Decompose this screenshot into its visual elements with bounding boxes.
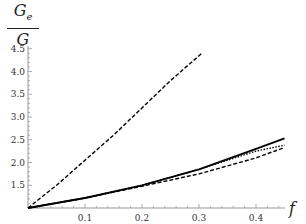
- x-tick-label: 0.4: [249, 213, 264, 223]
- y-tick-label: 2.5: [11, 135, 26, 145]
- x-tick-label: 0.1: [78, 213, 92, 223]
- y-tick-label: 3.0: [11, 112, 26, 122]
- y-tick-label: 2.0: [11, 158, 26, 168]
- series-dashed-low: [28, 148, 285, 209]
- x-tick-label: 0.2: [135, 213, 149, 223]
- series-solid: [28, 138, 285, 208]
- y-tick-label: 4.0: [11, 67, 26, 77]
- x-tick-label: 0.3: [192, 213, 207, 223]
- plot-area: 0.10.20.30.41.52.02.53.03.54.04.5: [0, 0, 306, 224]
- y-tick-label: 4.5: [11, 44, 26, 54]
- y-tick-label: 1.5: [11, 180, 26, 190]
- y-tick-label: 3.5: [11, 89, 26, 99]
- series-dashed-steep: [28, 53, 202, 208]
